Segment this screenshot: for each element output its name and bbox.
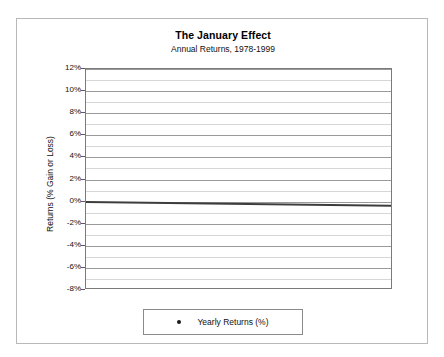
y-tick-label: -4% (37, 240, 81, 249)
gridline-minor-h (86, 235, 391, 236)
gridline-minor-h (86, 168, 391, 169)
gridline-minor-h (86, 279, 391, 280)
chart-page: The January Effect Annual Returns, 1978-… (0, 0, 444, 357)
legend-label: Yearly Returns (%) (197, 317, 268, 327)
y-tick-label: -6% (37, 262, 81, 271)
plot-area (85, 68, 392, 289)
gridline-major-h (86, 91, 391, 92)
gridline-minor-h (86, 102, 391, 103)
chart-title: The January Effect (17, 29, 429, 41)
gridline-major-h (86, 135, 391, 136)
y-tick-label: 4% (37, 151, 81, 160)
gridline-major-h (86, 268, 391, 269)
gridline-major-h (86, 224, 391, 225)
y-tick-label: -2% (37, 218, 81, 227)
y-tick-label: 0% (37, 196, 81, 205)
y-tick-label: 6% (37, 129, 81, 138)
y-tick-mark (81, 289, 85, 290)
gridline-minor-h (86, 191, 391, 192)
gridline-minor-h (86, 124, 391, 125)
gridline-minor-h (86, 213, 391, 214)
plot-inner (86, 69, 391, 288)
y-tick-label: -8% (37, 284, 81, 293)
chart-subtitle: Annual Returns, 1978-1999 (17, 44, 429, 54)
gridline-minor-h (86, 257, 391, 258)
y-tick-label: 12% (37, 63, 81, 72)
gridline-major-h (86, 113, 391, 114)
gridline-major-h (86, 180, 391, 181)
gridline-minor-h (86, 80, 391, 81)
legend-entry: Yearly Returns (%) (144, 310, 302, 334)
gridline-major-h (86, 157, 391, 158)
y-tick-label: 2% (37, 174, 81, 183)
y-tick-label: 8% (37, 107, 81, 116)
legend-box: Yearly Returns (%) (143, 309, 303, 335)
gridline-minor-h (86, 146, 391, 147)
legend-marker-icon (177, 320, 181, 324)
figure-frame: The January Effect Annual Returns, 1978-… (16, 18, 428, 344)
gridline-major-h (86, 69, 391, 70)
gridline-major-h (86, 246, 391, 247)
y-tick-label: 10% (37, 85, 81, 94)
